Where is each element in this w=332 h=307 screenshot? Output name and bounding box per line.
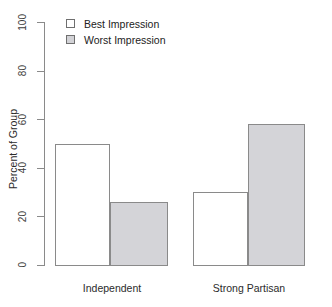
y-tick-mark <box>37 22 44 23</box>
y-tick-mark <box>37 119 44 120</box>
y-tick-mark <box>37 265 44 266</box>
bar-independent-best <box>55 144 110 267</box>
bar-chart: 020406080100 Percent of Group Independen… <box>0 0 332 307</box>
legend-item-1: Best Impression <box>66 17 166 30</box>
legend-label: Worst Impression <box>84 34 166 46</box>
x-axis-baseline <box>44 265 45 266</box>
legend-swatch-best <box>66 19 75 28</box>
legend-swatch-worst <box>66 35 75 44</box>
y-axis-title: Percent of Group <box>7 79 19 219</box>
y-tick-label: 80 <box>18 65 34 76</box>
bar-strong-partisan-best <box>193 192 248 266</box>
x-axis-label-2: Strong Partisan <box>193 282 305 294</box>
y-tick-label: 100 <box>18 14 34 31</box>
y-axis-line <box>44 22 45 266</box>
y-tick-mark <box>37 168 44 169</box>
x-axis-label-1: Independent <box>56 282 168 294</box>
y-tick-label: 60 <box>18 114 34 125</box>
y-tick-label: 0 <box>18 262 34 268</box>
y-tick-label: 40 <box>18 162 34 173</box>
legend-item-2: Worst Impression <box>66 33 166 46</box>
bar-strong-partisan-worst <box>248 124 305 266</box>
y-tick-mark <box>37 71 44 72</box>
legend-label: Best Impression <box>84 18 159 30</box>
y-tick-mark <box>37 216 44 217</box>
y-tick-label: 20 <box>18 211 34 222</box>
chart-legend: Best ImpressionWorst Impression <box>66 17 166 46</box>
bar-independent-worst <box>110 202 168 266</box>
